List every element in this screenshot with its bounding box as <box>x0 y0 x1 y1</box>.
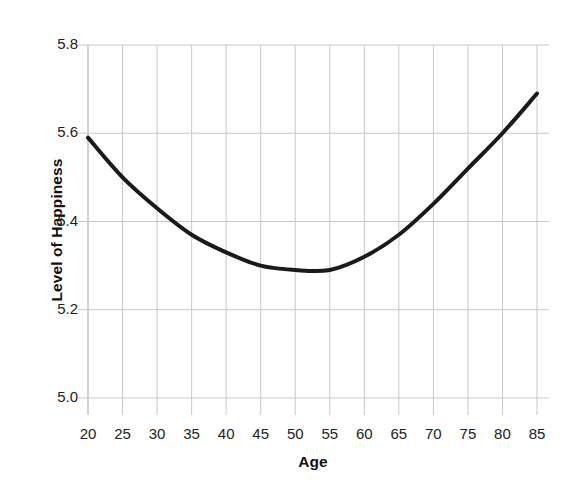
y-tick-label: 5.6 <box>32 123 78 140</box>
x-axis-title: Age <box>88 453 538 471</box>
y-tick-label: 5.0 <box>32 388 78 405</box>
data-line-level-of-happiness <box>88 94 537 272</box>
x-tick-label: 85 <box>517 425 557 442</box>
gridlines-vertical <box>88 45 537 415</box>
data-curve <box>88 94 537 272</box>
happiness-age-chart: Level of Happiness Age 5.05.25.45.65.8 2… <box>0 0 585 497</box>
y-tick-label: 5.4 <box>32 212 78 229</box>
chart-plot-area <box>0 0 585 497</box>
y-tick-label: 5.2 <box>32 300 78 317</box>
gridlines-horizontal <box>78 45 549 398</box>
y-tick-label: 5.8 <box>32 35 78 52</box>
